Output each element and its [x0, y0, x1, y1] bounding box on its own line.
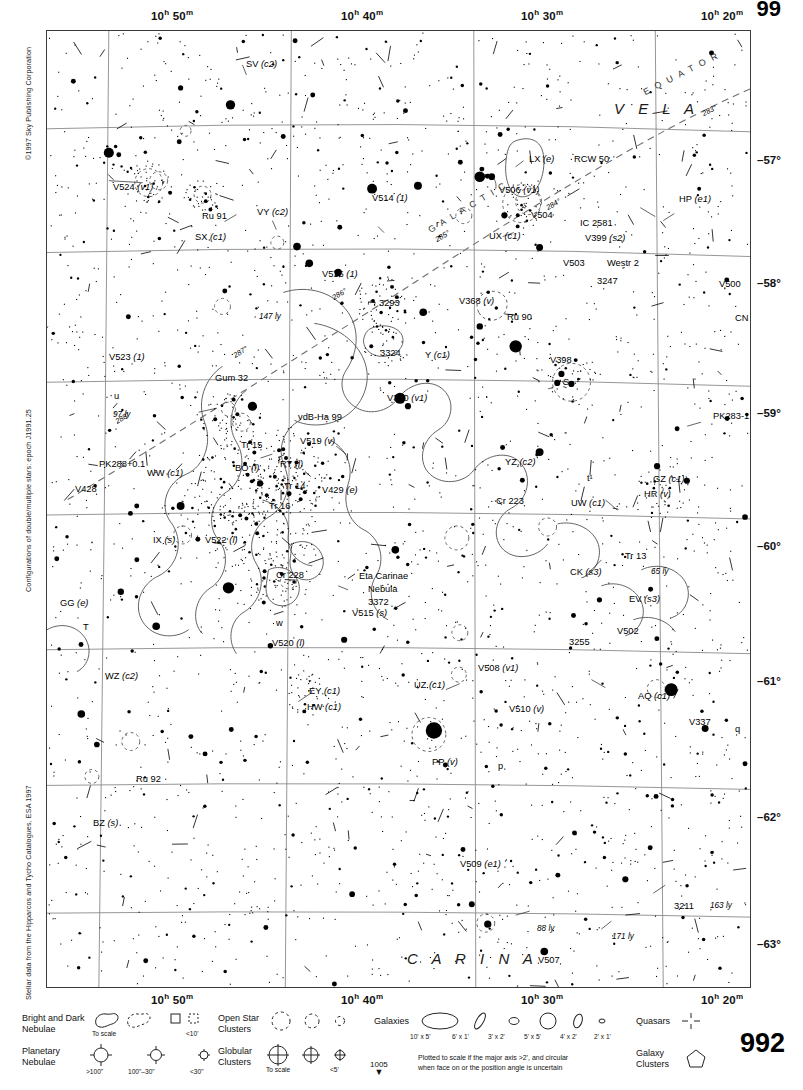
- legend-galaxy-size-3: 5' x 5': [524, 1033, 541, 1040]
- object-label: V368 (v): [459, 297, 494, 307]
- dec-tick-label: –62°: [757, 811, 781, 823]
- object-label: V370 (v1): [387, 394, 427, 404]
- legend-bright-dark-nebulae-title: Bright and Dark Nebulae: [22, 1013, 85, 1034]
- object-label: V503: [563, 259, 585, 269]
- dec-tick-label: –59°: [757, 407, 781, 419]
- object-label: V524 (v1): [113, 183, 153, 193]
- object-label: Cr 228: [276, 571, 304, 581]
- object-label: 3324: [380, 349, 401, 359]
- constellation-name: C A R I N A: [407, 951, 538, 967]
- object-label: u: [114, 392, 119, 402]
- object-label: IC 2581: [580, 219, 613, 229]
- object-label: 3372: [368, 598, 389, 608]
- object-label: BZ (s): [93, 819, 118, 829]
- legend-planetary-nebulae-title: Planetary Nebulae: [22, 1046, 60, 1067]
- object-label: w: [276, 619, 283, 629]
- object-label: Y (c1): [425, 351, 450, 361]
- object-label: 3247: [597, 277, 618, 287]
- object-label: Eta Carinae: [359, 572, 408, 582]
- ra-tick-label: 10h 50m: [151, 8, 193, 22]
- object-label: Nebula: [368, 585, 397, 595]
- object-label: 65 ly: [651, 568, 668, 577]
- object-label: YZ (c2): [505, 458, 536, 468]
- object-label: V504: [531, 211, 553, 221]
- dec-tick-label: –61°: [757, 675, 781, 687]
- object-label: EY (c1): [309, 687, 340, 697]
- galaxy-cluster-icon: [684, 1048, 708, 1070]
- legend-pn-mid: 100"–30": [128, 1068, 155, 1075]
- legend-gcl-line2: Clusters: [636, 1059, 669, 1069]
- object-label: V519 (v): [300, 437, 335, 447]
- object-label: Westr 2: [607, 259, 639, 269]
- object-label: PK288+0.1: [99, 460, 145, 470]
- legend-galaxies-title: Galaxies: [374, 1016, 409, 1027]
- object-label: EV (s3): [629, 595, 660, 605]
- legend-globular-clusters-title: Globular Clusters: [218, 1046, 252, 1067]
- object-label: V516 (1): [322, 270, 358, 280]
- object-label: V428: [75, 485, 97, 495]
- legend-pn-large: >100": [86, 1068, 103, 1075]
- object-label: Cr 223: [496, 497, 524, 507]
- legend-galaxy-size-2: 3' x 2': [488, 1033, 505, 1040]
- object-label: 3211: [674, 902, 694, 912]
- object-label: V514 (1): [372, 194, 408, 204]
- object-label: GZ (c1): [653, 475, 685, 485]
- object-label: Ru 90: [507, 313, 532, 323]
- object-label: V509 (e1): [460, 860, 501, 870]
- dec-tick-label: –60°: [757, 540, 781, 552]
- object-label: 88 ly: [537, 925, 554, 934]
- object-label: HP (e1): [679, 195, 711, 205]
- legend-gc-line1: Globular: [218, 1046, 252, 1056]
- object-label: V337: [689, 718, 711, 728]
- legend-gcl-line1: Galaxy: [636, 1048, 664, 1058]
- object-label: UW (c1): [571, 499, 605, 509]
- object-label: 147 ly: [259, 313, 281, 322]
- object-label: Tr 15: [241, 441, 262, 451]
- legend-quasars-title: Quasars: [636, 1016, 670, 1027]
- legend-pn-line2: Nebulae: [22, 1057, 56, 1067]
- dec-tick-label: –63°: [757, 938, 781, 950]
- map-legend: Bright and Dark Nebulae To scale <10' Pl…: [0, 1004, 803, 1090]
- object-label: V510 (v): [509, 705, 544, 715]
- dec-tick-label: –57°: [757, 154, 781, 166]
- object-label: V515 (s): [352, 609, 387, 619]
- object-label: HR (v): [644, 490, 671, 500]
- planetary-nebula-icon: [84, 1044, 224, 1068]
- object-label: RCW 50: [574, 155, 609, 165]
- object-label: V520 (l): [272, 639, 305, 649]
- data-source-note: Stellar data from the Hipparcos and Tych…: [24, 785, 33, 1000]
- object-label: Tr 16: [269, 502, 290, 512]
- legend-galaxy-size-5: 2' x 1': [594, 1033, 611, 1040]
- object-label: BO (l): [235, 464, 259, 474]
- globular-cluster-icon: [264, 1044, 364, 1068]
- small-nebula-icon: [168, 1010, 208, 1030]
- object-label: t¹: [587, 474, 593, 484]
- legend-pn-small: <30": [190, 1068, 204, 1075]
- star-chart-page: 99 10h 50m10h 40m10h 30m10h 20m 10h 50m1…: [0, 0, 803, 1090]
- bright-dark-nebula-icon: [90, 1010, 170, 1032]
- object-label: V429 (e): [322, 486, 358, 496]
- sky-map[interactable]: SV (c2)V524 (v1)Ru 91VY (c2)SX (c1)V514 …: [46, 30, 751, 988]
- object-label: Tr 14: [284, 482, 305, 492]
- object-label: PP (v): [432, 758, 458, 768]
- object-label: VY (c2): [257, 208, 288, 218]
- object-label: UX (c1): [489, 232, 521, 242]
- double-star-epoch-note: Configurations of double/multiple stars:…: [24, 409, 33, 592]
- legend-galaxy-size-0: 10' x 5': [410, 1033, 430, 1040]
- ra-tick-label: 10h 20m: [701, 8, 743, 22]
- legend-galaxy-note-1: Plotted to scale if the major axis >2', …: [418, 1053, 568, 1062]
- open-cluster-icon: [268, 1010, 358, 1032]
- object-label: WW (c1): [147, 469, 183, 479]
- object-label: V522 (l): [205, 536, 238, 546]
- legend-galaxy-size-4: 4' x 2': [560, 1033, 577, 1040]
- legend-galaxy-clusters-title: Galaxy Clusters: [636, 1048, 669, 1069]
- object-label: PK283-1.1: [713, 412, 751, 422]
- object-label: IX (s): [153, 536, 175, 546]
- object-label: 163 ly: [710, 902, 732, 911]
- page-number: 992: [740, 1028, 785, 1059]
- object-label: 171 ly: [612, 933, 634, 942]
- object-label: SV (c2): [246, 60, 277, 70]
- object-label: Gum 32: [215, 374, 248, 384]
- open-cluster-markers: [85, 125, 665, 932]
- object-label: WZ (c2): [105, 672, 138, 682]
